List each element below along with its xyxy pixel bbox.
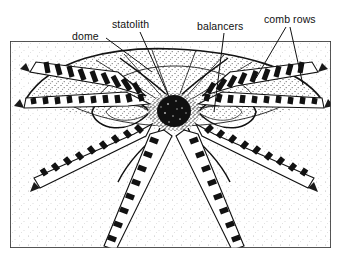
figure-canvas: dome statolith balancers comb rows	[0, 0, 345, 265]
statolith-mass	[157, 95, 191, 127]
label-balancers: balancers	[197, 21, 243, 32]
label-comb-rows: comb rows	[264, 14, 316, 25]
label-statolith: statolith	[112, 19, 149, 30]
ctenophore-apical-organ-diagram	[0, 0, 345, 265]
label-dome: dome	[72, 31, 99, 42]
